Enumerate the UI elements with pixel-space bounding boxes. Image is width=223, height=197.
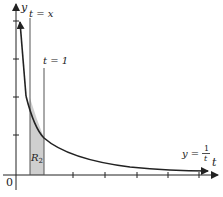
- curve-y-equals-1-over-t: [20, 22, 26, 96]
- curve-equation-label: y = 1 t: [181, 144, 210, 163]
- region-label-subscript: 2: [39, 157, 43, 165]
- graph-figure: y t 0 t = x t = 1 R2 y = 1 t: [0, 0, 223, 197]
- graph-svg: y t 0 t = x t = 1 R2 y = 1 t: [0, 0, 223, 197]
- curve-y-equals-1-over-t-main: [26, 96, 208, 171]
- curve-equation-lhs: y =: [181, 148, 199, 159]
- curve-equation-denominator: t: [204, 154, 208, 163]
- label-t-equals-x: t = x: [29, 8, 54, 19]
- x-axis-label: t: [212, 156, 217, 169]
- curve-equation-numerator: 1: [204, 144, 209, 153]
- origin-label: 0: [6, 176, 13, 189]
- y-axis-label: y: [20, 1, 28, 14]
- label-t-equals-1: t = 1: [43, 55, 68, 66]
